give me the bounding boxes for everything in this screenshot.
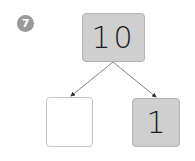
whole-box: 10 bbox=[82, 13, 145, 62]
known-part-box: 1 bbox=[132, 98, 180, 147]
whole-value: 10 bbox=[91, 20, 135, 55]
missing-part-box[interactable] bbox=[46, 97, 93, 147]
known-part-value: 1 bbox=[146, 105, 165, 140]
arrow-to-right-part bbox=[113, 62, 156, 97]
arrow-to-left-part bbox=[71, 62, 113, 96]
